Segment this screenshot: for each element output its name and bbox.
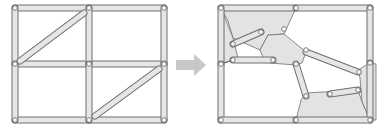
joint-pin	[368, 61, 373, 66]
joint-pin	[259, 30, 264, 35]
joint-pin	[13, 62, 18, 67]
joint-pin	[87, 6, 92, 11]
arrow-shape	[176, 54, 206, 76]
joint-pin	[368, 6, 373, 11]
joint-pin	[162, 118, 167, 123]
joint-pin	[368, 118, 373, 123]
joint-pin	[231, 58, 236, 63]
joint-pin	[162, 62, 167, 67]
joint-pin	[87, 62, 92, 67]
right-linkage-diagram	[219, 6, 376, 123]
joint-pin	[357, 70, 362, 75]
left-truss-diagram	[13, 6, 167, 123]
joint-pin	[356, 88, 361, 93]
joint-pin	[231, 42, 236, 47]
joint-pin	[294, 6, 299, 11]
joint-pin	[304, 48, 309, 53]
diagram-canvas	[0, 0, 384, 128]
joint-pin	[271, 58, 276, 63]
joint-pin	[13, 6, 18, 11]
arrow-right-icon	[176, 54, 206, 76]
joint-pin	[219, 6, 224, 11]
joint-pin	[304, 94, 309, 99]
joint-pin	[219, 62, 224, 67]
joint-pin	[294, 62, 299, 67]
truss-bar-fill	[20, 13, 84, 61]
joint-pin	[328, 92, 333, 97]
joint-pin	[162, 6, 167, 11]
joint-pin	[282, 27, 287, 32]
joint-pin	[13, 118, 18, 123]
joint-pin	[294, 118, 299, 123]
joint-pin	[219, 118, 224, 123]
linkage-bar-fill	[306, 52, 358, 72]
joint-pin	[87, 118, 92, 123]
truss-bar-fill	[95, 69, 159, 116]
